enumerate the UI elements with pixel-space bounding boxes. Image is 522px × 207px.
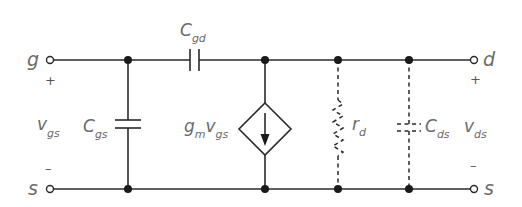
cgd-label: Cgd — [180, 20, 207, 45]
cgd-capacitor — [190, 49, 199, 71]
vds-plus-sign: + — [470, 72, 481, 87]
current-source-label: gmvgs — [184, 116, 229, 141]
vds-label: vds — [464, 116, 487, 141]
junction-nodes — [124, 56, 413, 193]
vgs-minus-sign: – — [45, 161, 52, 176]
cds-capacitor — [397, 60, 421, 189]
vgs-label: vgs — [37, 114, 60, 140]
rd-resistor — [333, 60, 343, 189]
source-terminal-right — [471, 186, 478, 193]
drain-label: d — [483, 48, 496, 70]
source-terminal-left — [47, 186, 54, 193]
source-label-left: s — [28, 177, 38, 199]
circuit-diagram: Cgd Cgs gmvgs rd Cds — [0, 0, 522, 207]
source-label-right: s — [484, 177, 494, 199]
drain-terminal — [471, 57, 478, 64]
vds-minus-sign: – — [470, 158, 477, 173]
gate-terminal — [47, 57, 54, 64]
cgs-label: Cgs — [83, 116, 108, 141]
vgs-plus-sign: + — [45, 73, 56, 88]
arrow-down-icon — [261, 113, 270, 146]
rd-label: rd — [352, 114, 367, 139]
cds-label: Cds — [425, 116, 450, 141]
dependent-current-source — [239, 60, 291, 189]
cgs-capacitor — [115, 60, 141, 189]
gate-label: g — [27, 48, 39, 70]
